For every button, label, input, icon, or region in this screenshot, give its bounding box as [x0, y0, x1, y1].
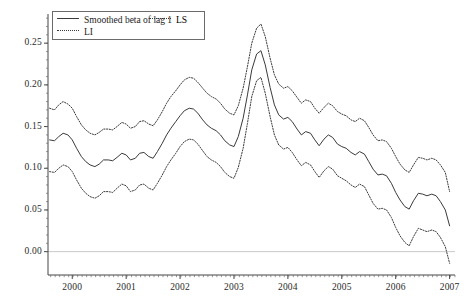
- legend-item-li: LI: [57, 27, 93, 37]
- x-axis-tick-label: 2007: [432, 282, 468, 292]
- x-axis-tick-label: 2005: [324, 282, 360, 292]
- x-axis-tick-label: 2004: [270, 282, 306, 292]
- x-axis-tick-label: 2006: [378, 282, 414, 292]
- x-axis-tick-label: 2001: [108, 282, 144, 292]
- x-axis-tick-label: 2002: [162, 282, 198, 292]
- series-line-li: [50, 77, 450, 263]
- chart-plot-area: [0, 0, 468, 307]
- y-axis-tick-label: 0.00: [4, 246, 42, 256]
- x-axis-tick-label: 2003: [216, 282, 252, 292]
- x-axis-tick-label: 2000: [54, 282, 90, 292]
- legend-line-dotted-ls-icon: [149, 18, 171, 20]
- legend-item-ls: LS: [149, 15, 187, 25]
- data-series-group: [50, 24, 450, 263]
- y-axis-tick-label: 0.15: [4, 121, 42, 131]
- chart-container: 0.000.050.100.150.200.25 200020012002200…: [0, 0, 468, 307]
- legend-line-dotted-li-icon: [57, 30, 79, 32]
- legend-line-solid-icon: [57, 18, 79, 20]
- chart-axes: [48, 14, 455, 275]
- series-line-smoothed-beta-of-lag-1: [50, 51, 450, 226]
- legend-label-li: LI: [84, 27, 93, 37]
- legend-label-ls: LS: [176, 15, 187, 25]
- y-axis-tick-label: 0.10: [4, 162, 42, 172]
- y-axis-tick-label: 0.05: [4, 204, 42, 214]
- y-axis-tick-label: 0.20: [4, 79, 42, 89]
- y-axis-tick-label: 0.25: [4, 37, 42, 47]
- chart-legend: Smoothed beta of lag 1 LS LI: [52, 11, 205, 40]
